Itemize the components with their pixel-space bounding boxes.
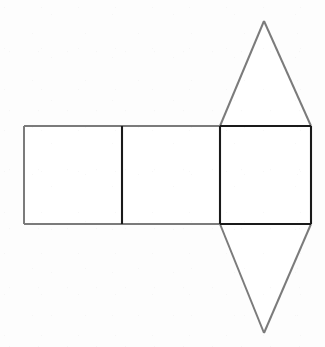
net-diagram	[0, 0, 325, 347]
figure-canvas	[0, 0, 325, 347]
middle-rectangle-face	[122, 126, 220, 224]
right-rectangle-face	[220, 126, 311, 224]
left-rectangle-face	[24, 126, 122, 224]
